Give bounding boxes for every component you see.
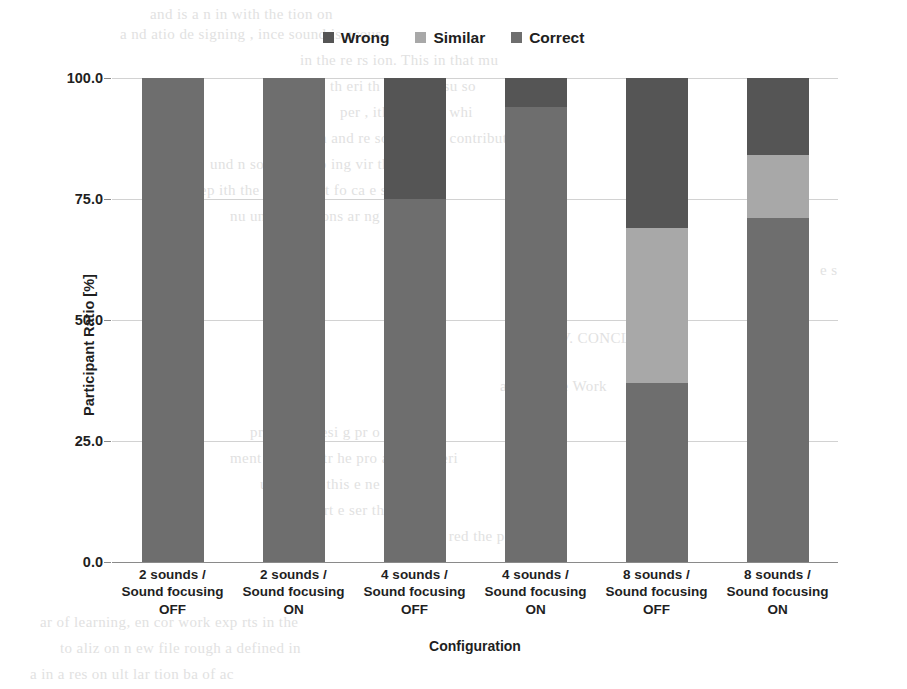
y-axis-tick-label: 75.0 bbox=[75, 191, 103, 207]
bar-segment-wrong[interactable] bbox=[747, 78, 809, 155]
y-axis-tick-mark bbox=[104, 441, 111, 442]
y-axis-tick-mark bbox=[104, 199, 111, 200]
bar-segment-wrong[interactable] bbox=[626, 78, 688, 228]
bar-slot bbox=[717, 78, 838, 562]
x-axis-tick-label: 8 sounds / Sound focusing OFF bbox=[596, 566, 717, 618]
legend-swatch-similar bbox=[415, 32, 426, 43]
legend-swatch-wrong bbox=[323, 32, 334, 43]
x-axis-tick-label: 2 sounds / Sound focusing ON bbox=[233, 566, 354, 618]
x-axis-tick-label: 4 sounds / Sound focusing OFF bbox=[354, 566, 475, 618]
legend-item-similar: Similar bbox=[415, 30, 485, 46]
bar-segment-wrong[interactable] bbox=[505, 78, 567, 107]
chart-legend: Wrong Similar Correct bbox=[0, 30, 907, 46]
plot-area: 0.025.050.075.0100.0 bbox=[112, 78, 838, 562]
y-axis-tick-label: 100.0 bbox=[67, 70, 103, 86]
bar-segment-similar[interactable] bbox=[626, 228, 688, 383]
legend-label-wrong: Wrong bbox=[341, 30, 390, 46]
y-axis-tick-label: 0.0 bbox=[83, 554, 103, 570]
bar-segment-correct[interactable] bbox=[142, 78, 204, 562]
y-axis-tick-label: 25.0 bbox=[75, 433, 103, 449]
y-axis-tick-mark bbox=[104, 320, 111, 321]
bar-slot bbox=[233, 78, 354, 562]
legend-swatch-correct bbox=[511, 32, 522, 43]
bar-slot bbox=[596, 78, 717, 562]
y-axis-tick-mark bbox=[104, 562, 111, 563]
x-axis-line bbox=[112, 562, 838, 564]
bar-segment-correct[interactable] bbox=[747, 218, 809, 562]
x-axis-ticks: 2 sounds / Sound focusing OFF2 sounds / … bbox=[112, 566, 838, 618]
stacked-bar-chart: Wrong Similar Correct Participant Ratio … bbox=[0, 0, 907, 689]
bar-segment-correct[interactable] bbox=[626, 383, 688, 562]
y-axis-tick-label: 50.0 bbox=[75, 312, 103, 328]
bar-slot bbox=[354, 78, 475, 562]
legend-item-correct: Correct bbox=[511, 30, 584, 46]
stacked-bar[interactable] bbox=[747, 78, 809, 562]
bar-segment-similar[interactable] bbox=[747, 155, 809, 218]
x-axis-tick-label: 4 sounds / Sound focusing ON bbox=[475, 566, 596, 618]
y-axis-tick-mark bbox=[104, 78, 111, 79]
stacked-bar[interactable] bbox=[626, 78, 688, 562]
stacked-bar[interactable] bbox=[263, 78, 325, 562]
legend-label-similar: Similar bbox=[433, 30, 485, 46]
y-axis-title: Participant Ratio [%] bbox=[81, 274, 97, 416]
bar-segment-wrong[interactable] bbox=[384, 78, 446, 199]
bar-segment-correct[interactable] bbox=[384, 199, 446, 562]
x-axis-tick-label: 2 sounds / Sound focusing OFF bbox=[112, 566, 233, 618]
stacked-bar[interactable] bbox=[505, 78, 567, 562]
legend-item-wrong: Wrong bbox=[323, 30, 390, 46]
bar-segment-correct[interactable] bbox=[505, 107, 567, 562]
x-axis-tick-label: 8 sounds / Sound focusing ON bbox=[717, 566, 838, 618]
stacked-bar[interactable] bbox=[384, 78, 446, 562]
bar-segment-correct[interactable] bbox=[263, 78, 325, 562]
bar-slot bbox=[475, 78, 596, 562]
stacked-bar[interactable] bbox=[142, 78, 204, 562]
x-axis-title: Configuration bbox=[112, 638, 838, 654]
bar-slot bbox=[112, 78, 233, 562]
bar-group bbox=[112, 78, 838, 562]
legend-label-correct: Correct bbox=[529, 30, 584, 46]
